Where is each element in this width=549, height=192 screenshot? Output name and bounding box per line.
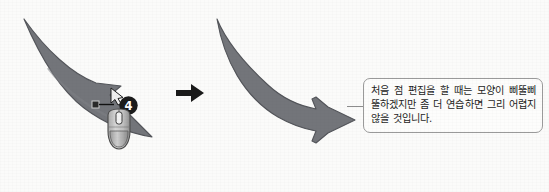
figure-page: 4 편집 전 도형 편집 후 도 xyxy=(0,0,549,192)
mouse-scroll-wheel-icon xyxy=(116,112,122,124)
before-shape-illustration: 4 xyxy=(0,0,175,192)
callout-box: 처음 점 편집을 할 때는 모양이 삐뚤삐뚤하겠지만 좀 더 연습하면 그리 어… xyxy=(363,78,543,133)
before-arrow-shape xyxy=(24,19,152,137)
after-panel: 편집 후 도형 xyxy=(212,0,367,192)
after-shape-illustration xyxy=(212,0,367,192)
transition-arrow-icon xyxy=(176,84,204,102)
before-panel: 4 편집 전 도형 xyxy=(0,0,175,192)
callout-leader-line xyxy=(347,106,364,107)
callout-text: 처음 점 편집을 할 때는 모양이 삐뚤삐뚤하겠지만 좀 더 연습하면 그리 어… xyxy=(371,84,536,126)
mouse-icon xyxy=(108,109,130,149)
edit-point-handle[interactable] xyxy=(92,101,99,108)
transition-arrow xyxy=(174,80,208,106)
after-curved-arrow-shape xyxy=(217,19,355,143)
